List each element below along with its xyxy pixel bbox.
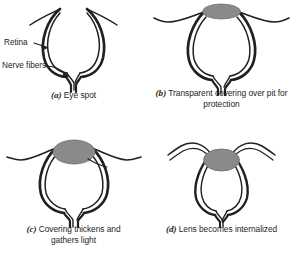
caption-text-b-line2: protection xyxy=(203,99,239,109)
panel-a-eye-spot: Retina Nerve fibers (a) Eye spot xyxy=(0,0,147,132)
caption-text-a: Eye spot xyxy=(64,90,96,100)
caption-tag-c: (c) xyxy=(26,224,36,234)
caption-text-d: Lens becomes internalized xyxy=(179,224,277,234)
label-nerve-fibers: Nerve fibers xyxy=(2,61,46,70)
caption-panel-d: (d) Lens becomes internalized xyxy=(148,224,295,235)
caption-text-b-line1: Transparent covering over pit for xyxy=(168,88,287,98)
caption-tag-a: (a) xyxy=(51,90,62,100)
panel-b-illustration xyxy=(148,0,295,96)
right-retina-inner-wall xyxy=(230,17,250,76)
left-retina-inner-wall xyxy=(193,17,213,76)
panel-c-covering-thickens: Lens (c) Covering thickens and gathers l… xyxy=(0,132,147,264)
caption-panel-b: (b) Transparent covering over pit for pr… xyxy=(148,88,295,109)
caption-panel-a: (a) Eye spot xyxy=(0,90,147,101)
lens-ellipse xyxy=(53,140,95,164)
panel-b-transparent-covering: (b) Transparent covering over pit for pr… xyxy=(148,0,295,132)
panel-d-lens-internalized: (d) Lens becomes internalized xyxy=(148,132,295,264)
panel-a-illustration xyxy=(0,0,147,96)
panel-d-illustration xyxy=(148,132,295,228)
caption-text-c-line2: gathers light xyxy=(51,235,96,245)
caption-tag-b: (b) xyxy=(156,88,167,98)
eye-evolution-figure: Retina Nerve fibers (a) Eye spot xyxy=(0,0,295,264)
lens-ellipse xyxy=(204,149,240,171)
caption-tag-d: (d) xyxy=(166,224,177,234)
label-retina: Retina xyxy=(4,38,28,47)
caption-panel-c: (c) Covering thickens and gathers light xyxy=(0,224,147,245)
caption-text-c-line1: Covering thickens and xyxy=(39,224,121,234)
panel-c-illustration xyxy=(0,132,147,228)
transparent-covering-ellipse xyxy=(203,4,241,19)
